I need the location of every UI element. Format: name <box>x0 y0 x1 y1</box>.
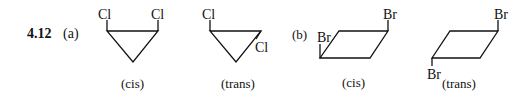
trans-dichlorocyclopropane <box>210 20 261 62</box>
part-a-label: (a) <box>63 26 79 42</box>
cis-a-substituent-left: Cl <box>98 7 111 22</box>
cis-a-substituent-right: Cl <box>151 7 164 22</box>
trans-a-substituent-top: Cl <box>202 7 215 22</box>
trans-a-substituent-bottom: Cl <box>255 40 268 55</box>
cis-b-substituent-left: Br <box>317 30 331 45</box>
cis-b-substituent-top: Br <box>383 7 397 22</box>
problem-number: 4.12 <box>27 26 52 41</box>
trans-b-substituent-top: Br <box>494 7 508 22</box>
trans-b-caption: (trans) <box>442 76 476 91</box>
cis-dichlorocyclopropane <box>107 20 158 62</box>
trans-b-substituent-bottom: Br <box>427 67 441 82</box>
cis-a-caption: (cis) <box>121 76 144 91</box>
trans-a-caption: (trans) <box>221 76 255 91</box>
figure-4-12: 4.12 (a) Cl Cl (cis) Cl Cl (trans) (b) B… <box>0 0 528 101</box>
trans-dibromocyclobutane <box>432 20 498 66</box>
part-b-label: (b) <box>292 27 307 42</box>
cis-b-caption: (cis) <box>342 75 365 90</box>
structures-diagram: 4.12 (a) Cl Cl (cis) Cl Cl (trans) (b) B… <box>0 0 528 101</box>
